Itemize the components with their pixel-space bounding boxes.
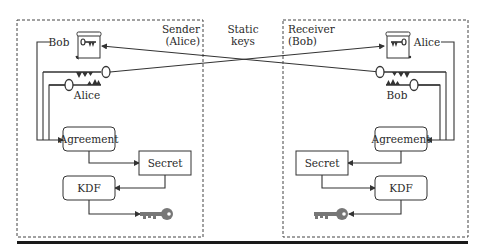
- receiver-title: Receiver: [288, 23, 336, 35]
- connector-agreement-to-secret: [348, 151, 401, 163]
- connector-agreement-to-secret: [89, 151, 139, 163]
- connector-kdf-to-derived-key: [349, 200, 401, 214]
- bob-keypair-icon: [376, 67, 446, 91]
- sender-kdf-label: KDF: [77, 182, 101, 194]
- receiver-agreement-label: Agreement: [371, 133, 432, 145]
- sender-title: Sender: [162, 23, 201, 35]
- connector-secret-to-kdf: [322, 175, 375, 188]
- sender-secret-label: Secret: [148, 157, 184, 169]
- receiver-kdf-label: KDF: [389, 182, 413, 194]
- connector-secret-to-kdf: [115, 175, 165, 188]
- bottom-rule: [17, 241, 468, 244]
- receiver-certificate-owner: Alice: [413, 36, 440, 48]
- key-agreement-diagram: Sender (Alice) Bob Alice: [0, 0, 483, 250]
- sender-subtitle: (Alice): [165, 35, 200, 47]
- static-keys-label-line2: keys: [231, 35, 255, 47]
- certificate-icon: [386, 32, 411, 58]
- connector-bob-cert-to-agreement: [37, 42, 63, 140]
- sender-agreement-label: Agreement: [59, 133, 120, 145]
- connector-kdf-to-derived-key: [89, 200, 140, 214]
- receiver-subtitle: (Bob): [288, 35, 317, 47]
- receiver-private-key-owner: Bob: [387, 89, 408, 101]
- derived-key-icon: [314, 208, 348, 220]
- receiver-secret-label: Secret: [305, 157, 341, 169]
- static-keys-label-line1: Static: [227, 23, 258, 35]
- sender-certificate-owner: Bob: [49, 36, 70, 48]
- sender-private-key-owner: Alice: [73, 89, 100, 101]
- certificate-icon: [76, 32, 101, 59]
- derived-key-icon: [140, 208, 173, 220]
- alice-keypair-icon: [43, 67, 110, 91]
